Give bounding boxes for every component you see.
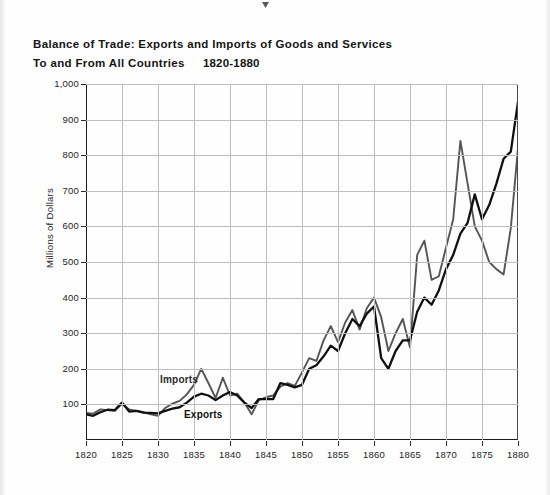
y-tick-mark [81, 191, 86, 192]
x-tick-label: 1865 [390, 449, 430, 460]
x-tick-mark [302, 441, 303, 446]
scan-edge-right [545, 0, 550, 495]
y-tick-label: 900 [33, 114, 79, 125]
chart-title: Balance of Trade: Exports and Imports of… [33, 35, 503, 73]
x-tick-mark [230, 441, 231, 446]
chart-page: Balance of Trade: Exports and Imports of… [0, 0, 550, 495]
y-tick-label: 200 [33, 363, 79, 374]
x-tick-label: 1850 [282, 449, 322, 460]
plot-area: Imports Exports [86, 84, 518, 440]
gridline-vertical [482, 84, 483, 440]
x-tick-mark [338, 441, 339, 446]
x-tick-label: 1835 [174, 449, 214, 460]
y-tick-mark [81, 333, 86, 334]
gridline-vertical [374, 84, 375, 440]
y-tick-label: 100 [33, 398, 79, 409]
x-tick-label: 1840 [210, 449, 250, 460]
y-tick-label: 300 [33, 327, 79, 338]
scan-edge-left [0, 0, 6, 495]
y-tick-mark [81, 155, 86, 156]
x-tick-mark [122, 441, 123, 446]
x-tick-mark [482, 441, 483, 446]
y-tick-label: 400 [33, 292, 79, 303]
x-tick-label: 1860 [354, 449, 394, 460]
x-tick-mark [266, 441, 267, 446]
x-tick-mark [410, 441, 411, 446]
chart-title-subject: To and From All Countries [33, 57, 185, 69]
x-tick-mark [374, 441, 375, 446]
x-tick-label: 1855 [318, 449, 358, 460]
x-tick-label: 1820 [66, 449, 106, 460]
x-tick-mark [158, 441, 159, 446]
series-label-imports: Imports [160, 374, 198, 385]
chart-title-line-1: Balance of Trade: Exports and Imports of… [33, 35, 503, 54]
y-tick-label: 800 [33, 149, 79, 160]
x-tick-mark [86, 441, 87, 446]
gridline-vertical [338, 84, 339, 440]
y-tick-label: 1,000 [33, 78, 79, 89]
x-tick-mark [518, 441, 519, 446]
gridline-vertical [446, 84, 447, 440]
y-tick-label: 600 [33, 220, 79, 231]
x-tick-label: 1880 [498, 449, 538, 460]
chart-title-year-range: 1820-1880 [203, 57, 260, 69]
gridline-vertical [122, 84, 123, 440]
gridline-vertical [266, 84, 267, 440]
x-tick-label: 1830 [138, 449, 178, 460]
x-tick-mark [194, 441, 195, 446]
series-label-exports: Exports [184, 409, 223, 420]
y-tick-mark [81, 84, 86, 85]
y-tick-mark [81, 262, 86, 263]
x-tick-label: 1845 [246, 449, 286, 460]
chart-title-line-2: To and From All Countries1820-1880 [33, 54, 503, 73]
gridline-vertical [230, 84, 231, 440]
x-tick-mark [446, 441, 447, 446]
gridline-vertical [158, 84, 159, 440]
y-tick-mark [81, 120, 86, 121]
y-tick-mark [81, 369, 86, 370]
scan-registration-mark [262, 2, 269, 8]
x-tick-label: 1870 [426, 449, 466, 460]
x-tick-label: 1825 [102, 449, 142, 460]
y-tick-mark [81, 226, 86, 227]
y-tick-mark [81, 298, 86, 299]
gridline-vertical [194, 84, 195, 440]
y-tick-label: 700 [33, 185, 79, 196]
y-tick-label: 500 [33, 256, 79, 267]
y-tick-mark [81, 404, 86, 405]
gridline-vertical [410, 84, 411, 440]
x-tick-label: 1875 [462, 449, 502, 460]
gridline-vertical [302, 84, 303, 440]
